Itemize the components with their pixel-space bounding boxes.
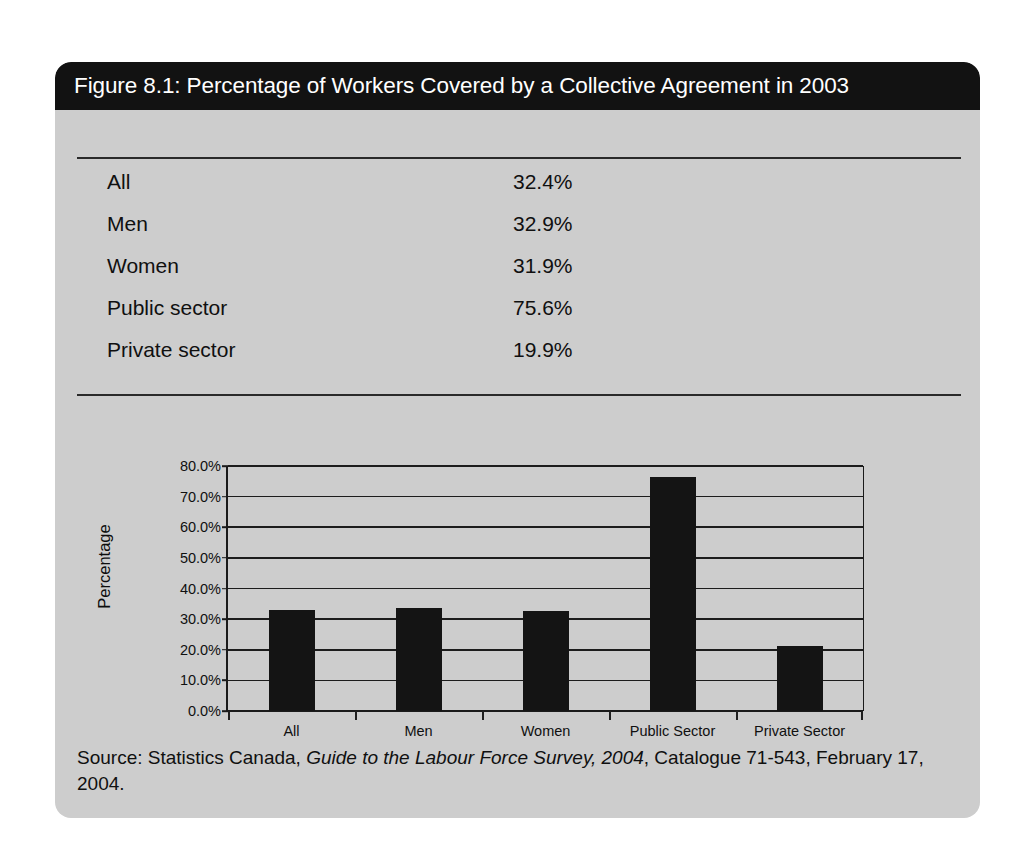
table-row-value: 32.4% bbox=[513, 170, 573, 194]
summary-table: All32.4%Men32.9%Women31.9%Public sector7… bbox=[55, 170, 980, 380]
table-row-value: 32.9% bbox=[513, 212, 573, 236]
y-tick-label: 80.0% bbox=[180, 458, 221, 474]
table-row-label: Men bbox=[107, 212, 148, 236]
y-tick-label: 50.0% bbox=[180, 550, 221, 566]
plot-area: 0.0%10.0%20.0%30.0%40.0%50.0%60.0%70.0%8… bbox=[226, 466, 864, 711]
x-tick-label: Private Sector bbox=[754, 723, 845, 739]
gridline bbox=[228, 496, 863, 498]
table-row: Women31.9% bbox=[55, 254, 980, 296]
bar-men bbox=[396, 608, 442, 711]
table-row-label: Women bbox=[107, 254, 179, 278]
figure-card: Figure 8.1: Percentage of Workers Covere… bbox=[55, 62, 980, 818]
gridline bbox=[228, 557, 863, 559]
x-tick-label: All bbox=[283, 723, 299, 739]
bar-public-sector bbox=[650, 477, 696, 711]
bar-chart: Percentage 0.0%10.0%20.0%30.0%40.0%50.0%… bbox=[55, 407, 980, 707]
table-row-label: Public sector bbox=[107, 296, 227, 320]
table-row-value: 75.6% bbox=[513, 296, 573, 320]
y-tick-label: 40.0% bbox=[180, 581, 221, 597]
y-tick-mark bbox=[222, 465, 228, 467]
figure-title: Figure 8.1: Percentage of Workers Covere… bbox=[74, 73, 849, 99]
table-row: Private sector19.9% bbox=[55, 338, 980, 380]
table-row: Men32.9% bbox=[55, 212, 980, 254]
source-note: Source: Statistics Canada, Guide to the … bbox=[77, 745, 957, 797]
x-tick-mark bbox=[736, 711, 738, 720]
table-row: All32.4% bbox=[55, 170, 980, 212]
table-row-label: Private sector bbox=[107, 338, 235, 362]
table-row: Public sector75.6% bbox=[55, 296, 980, 338]
gridline bbox=[228, 588, 863, 590]
table-row-label: All bbox=[107, 170, 130, 194]
y-tick-mark bbox=[222, 649, 228, 651]
x-tick-mark bbox=[228, 711, 230, 720]
y-tick-mark bbox=[222, 557, 228, 559]
x-tick-mark bbox=[482, 711, 484, 720]
source-publication-title: Guide to the Labour Force Survey, 2004 bbox=[306, 747, 644, 768]
y-tick-label: 10.0% bbox=[180, 672, 221, 688]
y-tick-label: 0.0% bbox=[188, 703, 221, 719]
table-row-value: 19.9% bbox=[513, 338, 573, 362]
bar-all bbox=[269, 610, 315, 711]
y-tick-label: 20.0% bbox=[180, 642, 221, 658]
source-prefix: Source: Statistics Canada, bbox=[77, 747, 306, 768]
x-tick-mark bbox=[355, 711, 357, 720]
x-tick-mark bbox=[861, 711, 863, 720]
y-tick-label: 60.0% bbox=[180, 519, 221, 535]
y-tick-mark bbox=[222, 526, 228, 528]
x-tick-label: Men bbox=[404, 723, 432, 739]
bar-women bbox=[523, 611, 569, 711]
table-row-value: 31.9% bbox=[513, 254, 573, 278]
table-top-rule bbox=[77, 157, 961, 159]
y-tick-mark bbox=[222, 680, 228, 682]
y-tick-label: 70.0% bbox=[180, 489, 221, 505]
y-tick-mark bbox=[222, 496, 228, 498]
y-tick-mark bbox=[222, 618, 228, 620]
gridline bbox=[228, 526, 863, 528]
x-tick-label: Women bbox=[521, 723, 571, 739]
y-tick-label: 30.0% bbox=[180, 611, 221, 627]
gridline bbox=[228, 465, 863, 467]
x-tick-mark bbox=[609, 711, 611, 720]
bar-private-sector bbox=[777, 646, 823, 711]
y-axis-title: Percentage bbox=[95, 492, 114, 642]
y-tick-mark bbox=[222, 588, 228, 590]
figure-title-bar: Figure 8.1: Percentage of Workers Covere… bbox=[55, 62, 980, 110]
x-tick-label: Public Sector bbox=[630, 723, 715, 739]
table-bottom-rule bbox=[77, 394, 961, 396]
